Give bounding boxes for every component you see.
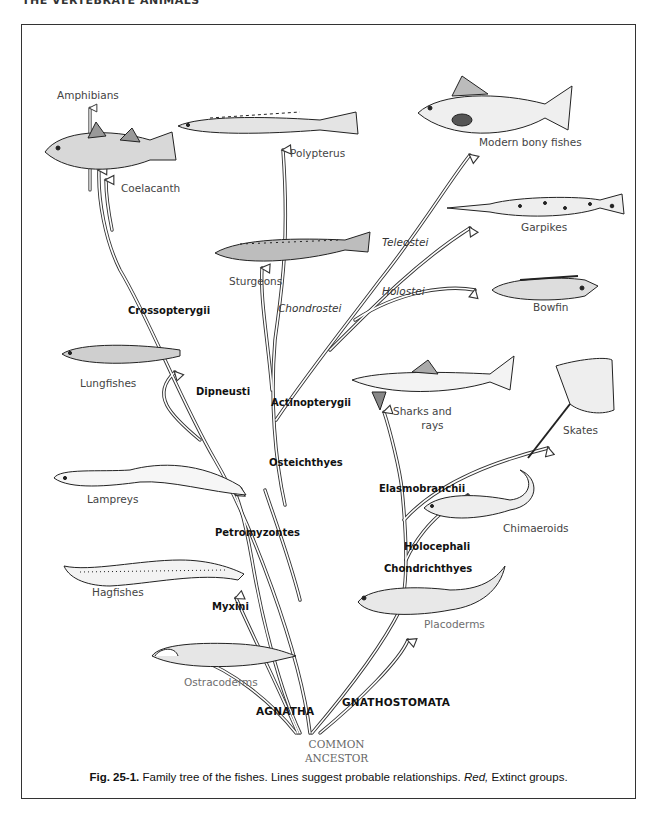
chimaeroid-illustration [424,470,534,518]
lungfish-illustration [62,345,180,363]
skate-illustration [528,358,614,458]
label-coelacanth: Coelacanth [121,183,180,194]
sturgeon-illustration [215,232,370,261]
caption-text: Family tree of the fishes. Lines suggest… [139,771,464,783]
label-ostracoderms-extinct: Ostracoderms [184,677,258,688]
label-holostei: Holostei [382,286,425,297]
caption-tail: Extinct groups. [488,771,567,783]
common-ancestor-line2: ANCESTOR [305,752,368,764]
lamprey-illustration [54,465,246,495]
bowfin-illustration [492,276,598,300]
illustrations [45,76,624,667]
label-holocephali: Holocephali [404,542,470,552]
caption-red-key: Red, [464,771,488,783]
label-agnatha: AGNATHA [256,706,314,717]
label-common-ancestor: COMMON ANCESTOR [305,737,368,765]
polypterus-illustration [178,112,358,134]
label-amphibians: Amphibians [57,90,119,101]
phylogeny-tree [0,0,659,817]
label-sharks-and-rays-line1: Sharks and [393,405,452,417]
label-gnathostomata: GNATHOSTOMATA [342,697,450,708]
hagfish-illustration [64,560,244,586]
label-teleostei: Teleostei [382,237,428,248]
modern-bony-fish-illustration [418,76,572,133]
branch-group [99,150,548,733]
figure-caption: Fig. 25-1. Family tree of the fishes. Li… [21,771,636,783]
label-petromyzontes: Petromyzontes [215,528,300,538]
coelacanth-illustration [45,122,176,169]
label-modern-bony-fishes: Modern bony fishes [479,137,582,148]
label-hagfishes: Hagfishes [92,587,144,598]
label-polypterus: Polypterus [290,148,345,159]
label-sturgeons: Sturgeons [229,276,282,287]
garpike-illustration [447,194,624,216]
label-elasmobranchii: Elasmobranchii [379,484,465,494]
label-bowfin: Bowfin [533,302,568,313]
label-sharks-and-rays-line2: rays [401,419,443,431]
label-myxini: Myxini [212,602,249,612]
label-chondrichthyes: Chondrichthyes [384,564,472,574]
label-dipneusti: Dipneusti [196,387,250,397]
label-sharks-and-rays: Sharks and rays [393,404,452,432]
figure-number: Fig. 25-1. [89,771,139,783]
label-crossopterygii: Crossopterygii [128,306,210,316]
label-chimaeroids: Chimaeroids [503,523,569,534]
label-placoderms-extinct: Placoderms [424,619,485,630]
shark-illustration [352,356,514,410]
label-actinopterygii: Actinopterygii [271,398,351,408]
label-garpikes: Garpikes [521,222,567,233]
common-ancestor-line1: COMMON [309,738,365,750]
label-chondrostei: Chondrostei [278,303,341,314]
label-lungfishes: Lungfishes [80,378,136,389]
label-lampreys: Lampreys [87,494,138,505]
label-skates: Skates [563,425,598,436]
label-osteichthyes: Osteichthyes [269,458,343,468]
